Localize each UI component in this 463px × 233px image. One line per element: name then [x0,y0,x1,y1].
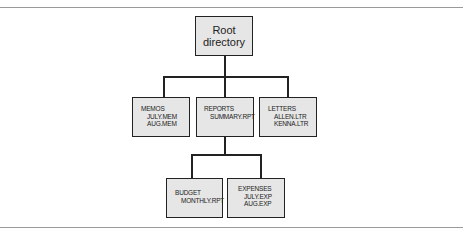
memos-directory-node: MEMOS JULY.MEM AUG.MEM [132,97,190,137]
connector-expenses [260,154,262,178]
directory-name: EXPENSES [238,185,284,193]
root-directory-node: Root directory [195,16,253,56]
root-label-line2: directory [203,36,245,48]
file-name: AUG.MEM [141,120,189,128]
connector-reports-down [224,137,226,155]
letters-directory-node: LETTERS ALLEN.LTR KENNA.LTR [259,97,317,137]
expenses-directory-node: EXPENSES JULY.EXP AUG.EXP [227,178,285,218]
file-name: ALLEN.LTR [268,113,316,121]
directory-name: BUDGET [175,189,222,197]
budget-directory-node: BUDGET MONTHLY.RPT [166,178,223,218]
bottom-rule [0,227,463,228]
directory-name: REPORTS [204,105,253,113]
file-name: JULY.MEM [141,113,189,121]
file-name: AUG.EXP [238,200,284,208]
connector-memos [163,76,165,97]
file-name: MONTHLY.RPT [175,197,222,205]
top-rule [0,7,463,8]
connector-reports [224,76,226,97]
connector-budget [191,154,193,178]
connector-letters [287,76,289,97]
root-label-line1: Root [212,24,235,36]
connector-root-down [224,56,226,77]
reports-directory-node: REPORTS SUMMARY.RPT [196,97,254,137]
connector-level1-horizontal [163,76,288,78]
file-name: JULY.EXP [238,193,284,201]
directory-name: MEMOS [141,105,189,113]
connector-level2-horizontal [191,154,261,156]
directory-name: LETTERS [268,105,316,113]
file-name: KENNA.LTR [268,120,316,128]
file-name: SUMMARY.RPT [204,113,253,121]
